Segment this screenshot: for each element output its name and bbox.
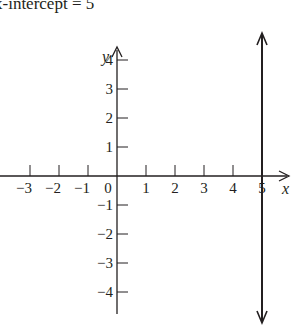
y-tick-label: 1 [106, 139, 114, 155]
x-axis-label: x [281, 180, 289, 197]
y-tick-label: −4 [97, 284, 113, 300]
y-tick-label: −1 [97, 197, 113, 213]
x-tick-label: 1 [142, 180, 150, 196]
x-tick-label: 0 [104, 180, 112, 196]
y-tick-label: 2 [106, 110, 114, 126]
x-tick-label: 3 [200, 180, 208, 196]
y-tick-label: 4 [106, 52, 114, 68]
y-tick-label: −3 [97, 255, 113, 271]
x-tick-label: 4 [229, 180, 237, 196]
x-tick-label: 2 [171, 180, 179, 196]
y-tick-label: −2 [97, 226, 113, 242]
y-tick-label: 3 [106, 81, 114, 97]
x-tick-label: −1 [74, 180, 90, 196]
x-tick-label: −3 [16, 180, 32, 196]
x-tick-label: −2 [45, 180, 61, 196]
coordinate-plane: xy−3−2−10123454321−1−2−3−4 [0, 0, 298, 332]
